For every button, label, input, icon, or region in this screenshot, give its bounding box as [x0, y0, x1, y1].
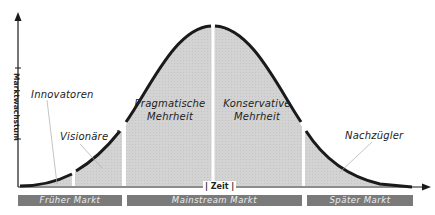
segment-label-innovators: Innovatoren	[31, 89, 94, 100]
segment-label-pragmatic-line1: Pragmatische	[128, 97, 212, 110]
separator-innovators-visionaries	[72, 165, 75, 188]
separator-chasm	[122, 110, 126, 188]
segment-label-pragmatic-line2: Mehrheit	[128, 110, 212, 123]
x-axis-label: | Zeit |	[203, 181, 236, 192]
y-axis-arrow-icon	[15, 12, 22, 21]
leader-line-laggards	[340, 142, 372, 172]
x-axis-arrow-icon	[422, 184, 431, 191]
leader-line-innovators	[47, 100, 57, 184]
separator-late	[302, 100, 305, 188]
segment-label-visionaries: Visionäre	[60, 131, 108, 142]
segment-label-conservative-line2: Mehrheit	[215, 110, 299, 123]
market-bar-late: Später Markt	[307, 195, 413, 206]
segment-label-laggards: Nachzügler	[345, 130, 403, 141]
segment-label-pragmatic-majority: Pragmatische Mehrheit	[128, 97, 212, 123]
market-bar-early: Früher Markt	[18, 195, 122, 206]
chasm-dot	[117, 130, 119, 132]
x-axis-label-text: Zeit	[211, 182, 229, 191]
y-axis-label: Marktwachstum	[2, 73, 30, 135]
segment-label-conservative-line1: Konservative	[215, 97, 299, 110]
market-bar-mainstream: Mainstream Markt	[127, 195, 302, 206]
segment-label-conservative-majority: Konservative Mehrheit	[215, 97, 299, 123]
